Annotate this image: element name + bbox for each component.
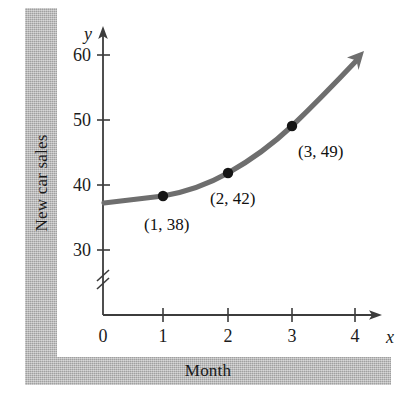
x-axis-variable-name: x <box>385 327 394 347</box>
data-curve <box>104 51 364 203</box>
data-point <box>158 191 168 201</box>
data-point <box>287 121 297 131</box>
data-point-label: (1, 38) <box>144 215 189 234</box>
y-tick-label-30: 30 <box>73 240 91 260</box>
data-point-label: (3, 49) <box>298 142 343 161</box>
x-tick-label-4: 4 <box>351 326 360 346</box>
x-tick-label-2: 2 <box>224 326 233 346</box>
y-axis-variable-name: y <box>82 24 92 44</box>
y-tick-label-50: 50 <box>73 110 91 130</box>
x-tick-label-3: 3 <box>288 326 297 346</box>
data-point-label: (2, 42) <box>210 189 255 208</box>
x-tick-label-0: 0 <box>99 326 108 346</box>
y-tick-label-60: 60 <box>73 45 91 65</box>
plot-area: 60 50 40 30 0 1 2 3 4 y x (1, 38) (2, 42… <box>0 0 408 399</box>
figure-container: New car sales Month <box>0 0 408 399</box>
x-axis <box>103 310 382 320</box>
x-tick-label-1: 1 <box>159 326 168 346</box>
data-point <box>223 168 233 178</box>
y-tick-label-40: 40 <box>73 175 91 195</box>
